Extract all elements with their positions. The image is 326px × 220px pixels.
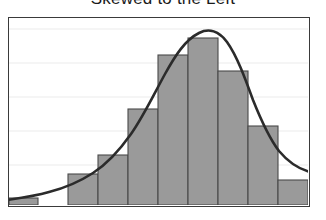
plot-area <box>8 17 310 207</box>
histogram-bar <box>248 126 278 205</box>
histogram-bar <box>188 38 218 205</box>
histogram-bar <box>128 109 158 205</box>
histogram-bar <box>278 180 308 205</box>
histogram-bar <box>98 155 128 205</box>
histogram-plot <box>9 18 308 205</box>
chart-title: Skewed to the Left <box>0 0 326 9</box>
histogram-bar <box>218 71 248 205</box>
chart-figure: Skewed to the Left <box>0 0 326 220</box>
